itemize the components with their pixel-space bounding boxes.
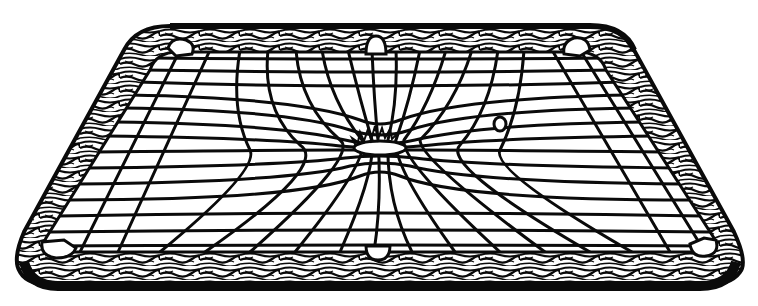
pocket-top-center: [366, 36, 386, 54]
small-ball: [494, 117, 506, 131]
billiard-table-gravity-well-illustration: [0, 0, 758, 306]
pocket-top-right: [564, 38, 590, 56]
pocket-bottom-center: [366, 246, 390, 260]
pocket-top-left: [168, 39, 193, 56]
pocket-bottom-right: [690, 238, 717, 256]
